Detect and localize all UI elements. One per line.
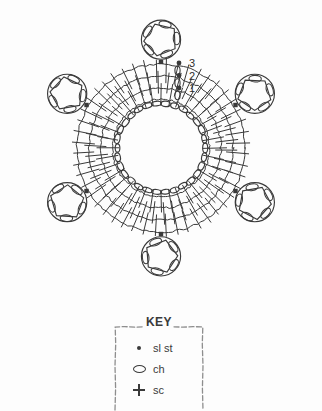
round-number-label: 3: [189, 57, 195, 69]
pentagon-motifs-group: [47, 20, 275, 276]
key-title: KEY: [113, 315, 205, 329]
round-number-label: 1: [189, 82, 195, 94]
key-item-label: sc: [149, 384, 164, 396]
key-legend: KEY sl st ch sc: [113, 318, 205, 411]
key-item-sl-st: sl st: [129, 339, 173, 357]
key-item-label: ch: [149, 363, 165, 375]
center-chain-ring-group: [114, 101, 208, 195]
key-item-label: sl st: [149, 342, 173, 354]
round-number-labels-group: 123: [189, 57, 195, 94]
crochet-chart-diagram: 123: [0, 0, 322, 300]
round-number-label: 2: [189, 70, 195, 82]
sc-rounds-group: [72, 59, 249, 237]
sc-plus-icon: [129, 384, 149, 396]
chart-page: 123 KEY sl st ch sc: [0, 0, 322, 411]
sl-st-dot-icon: [129, 346, 149, 350]
key-item-sc: sc: [129, 381, 164, 399]
key-item-ch: ch: [129, 360, 165, 378]
ch-oval-icon: [129, 365, 149, 373]
diagram-root: [47, 20, 275, 276]
